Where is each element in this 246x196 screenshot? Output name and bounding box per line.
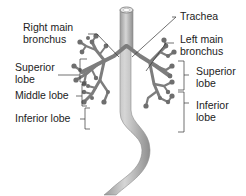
bronchial-tree-diagram: Right main bronchus Trachea Left main br… <box>0 0 246 196</box>
label-right-superior-lobe: Superior lobe <box>15 62 55 85</box>
esophagus-shape <box>104 40 150 195</box>
trachea-shape <box>120 10 133 48</box>
label-left-inferior-lobe: Inferior lobe <box>196 100 229 123</box>
label-right-main-bronchus: Right main bronchus <box>23 22 73 45</box>
label-right-inferior-lobe: Inferior lobe <box>15 113 70 125</box>
label-left-main-bronchus: Left main bronchus <box>180 34 223 57</box>
label-left-superior-lobe: Superior lobe <box>196 66 236 89</box>
label-trachea: Trachea <box>180 11 218 23</box>
label-right-middle-lobe: Middle lobe <box>15 90 69 102</box>
